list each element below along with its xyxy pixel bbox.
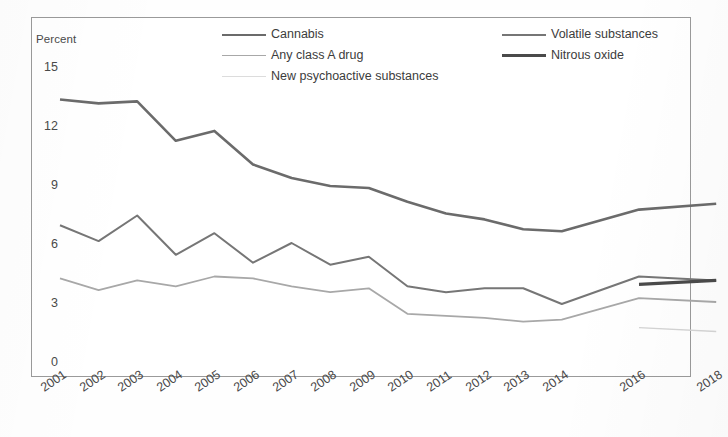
y-axis-title: Percent <box>36 33 76 45</box>
legend-item-cannabis[interactable]: Cannabis <box>222 24 438 45</box>
chart-legend: CannabisAny class A drugNew psychoactive… <box>222 24 682 86</box>
legend-swatch-icon <box>222 55 266 56</box>
chart-figure: Percent 15129630 20012002200320042005200… <box>0 0 728 437</box>
y-tick-9: 9 <box>34 178 58 192</box>
legend-swatch-icon <box>502 54 546 57</box>
legend-item-new-psychoactive-substances[interactable]: New psychoactive substances <box>222 66 438 87</box>
legend-label: Cannabis <box>271 28 324 41</box>
legend-item-volatile-substances[interactable]: Volatile substances <box>502 24 658 45</box>
legend-label: Volatile substances <box>551 28 658 41</box>
y-tick-6: 6 <box>34 237 58 251</box>
legend-column-left: CannabisAny class A drugNew psychoactive… <box>222 24 438 87</box>
legend-swatch-icon <box>222 76 266 77</box>
legend-item-nitrous-oxide[interactable]: Nitrous oxide <box>502 45 658 66</box>
x-tick-2018: 2018 <box>694 367 725 394</box>
legend-label: New psychoactive substances <box>271 70 438 83</box>
legend-column-right: Volatile substancesNitrous oxide <box>502 24 658 66</box>
legend-item-any-class-a-drug[interactable]: Any class A drug <box>222 45 438 66</box>
legend-label: Any class A drug <box>271 49 363 62</box>
legend-swatch-icon <box>222 34 266 36</box>
y-tick-0: 0 <box>34 355 58 369</box>
y-tick-3: 3 <box>34 296 58 310</box>
y-tick-12: 12 <box>34 119 58 133</box>
legend-label: Nitrous oxide <box>551 49 624 62</box>
y-tick-15: 15 <box>34 60 58 74</box>
legend-swatch-icon <box>502 34 546 36</box>
